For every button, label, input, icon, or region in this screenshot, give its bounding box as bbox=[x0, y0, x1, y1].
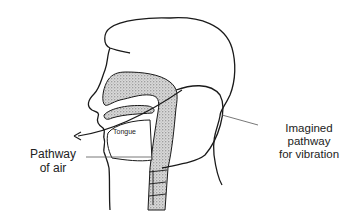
vocal-tract-diagram bbox=[0, 0, 353, 224]
imagined-pathway-line1: Imagined bbox=[268, 122, 350, 135]
palate bbox=[104, 105, 154, 119]
pathway-of-air-line2: of air bbox=[18, 162, 88, 176]
pathway-of-air-label: Pathway of air bbox=[18, 148, 88, 176]
imagined-pathway-line2: pathway bbox=[268, 135, 350, 148]
pathway-of-air-line1: Pathway bbox=[18, 148, 88, 162]
vibration-leader-line bbox=[222, 115, 258, 125]
tongue-label: Tongue bbox=[113, 128, 136, 136]
skull-back-outline bbox=[170, 18, 235, 185]
imagined-pathway-label: Imagined pathway for vibration bbox=[268, 122, 350, 162]
imagined-pathway-line3: for vibration bbox=[268, 148, 350, 161]
